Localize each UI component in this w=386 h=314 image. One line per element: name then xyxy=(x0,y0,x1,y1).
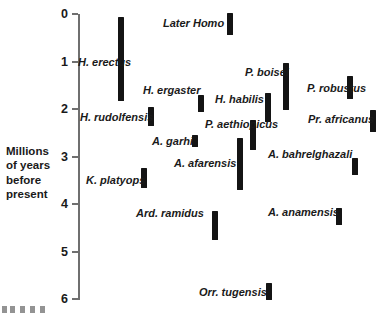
y-axis-title-line-3: before xyxy=(6,173,70,187)
taxon-label: H. ergaster xyxy=(143,85,200,96)
taxon-label: A. afarensis xyxy=(174,158,236,169)
range-bar xyxy=(212,211,218,240)
y-axis-title: Millions of years before present xyxy=(6,144,70,202)
y-axis-title-line-4: present xyxy=(6,187,70,201)
taxon-label: H. habilis xyxy=(215,94,264,105)
taxon-label: H. erectus xyxy=(78,57,131,68)
taxon-label: P. boisei xyxy=(245,67,289,78)
taxon-label: Pr. africanus xyxy=(308,114,374,125)
y-axis-tick xyxy=(72,298,78,300)
page-corner-artifact xyxy=(2,305,48,314)
y-axis-tick-label: 6 xyxy=(44,293,68,306)
range-bar xyxy=(266,283,272,300)
y-axis-tick xyxy=(72,251,78,253)
taxon-label: A. garhi xyxy=(152,136,193,147)
y-axis-title-line-1: Millions xyxy=(6,144,70,158)
y-axis-tick-label: 5 xyxy=(44,246,68,259)
taxon-label: P. robustus xyxy=(307,83,366,94)
y-axis-title-line-2: of years xyxy=(6,158,70,172)
y-axis-tick-label: 0 xyxy=(44,8,68,21)
range-bar xyxy=(352,158,358,175)
taxon-label: A. anamensis xyxy=(268,207,339,218)
taxon-label: A. bahrelghazali xyxy=(268,149,352,160)
taxon-label: Orr. tugensis xyxy=(199,287,267,298)
taxon-label: Ard. ramidus xyxy=(136,208,204,219)
y-axis-tick-label: 1 xyxy=(44,56,68,69)
hominin-timeline-chart: 0123456 Millions of years before present… xyxy=(0,0,386,314)
range-bar xyxy=(237,138,243,190)
taxon-label: H. rudolfensis xyxy=(80,112,153,123)
range-bar xyxy=(198,95,204,112)
y-axis-tick xyxy=(72,13,78,15)
y-axis-tick xyxy=(72,156,78,158)
taxon-label: K. platyops xyxy=(86,175,145,186)
y-axis-tick-label: 2 xyxy=(44,103,68,116)
y-axis-tick xyxy=(72,108,78,110)
taxon-label: Later Homo xyxy=(163,18,224,29)
y-axis-tick xyxy=(72,203,78,205)
taxon-label: P. aethiopicus xyxy=(205,119,278,130)
range-bar xyxy=(227,13,233,35)
